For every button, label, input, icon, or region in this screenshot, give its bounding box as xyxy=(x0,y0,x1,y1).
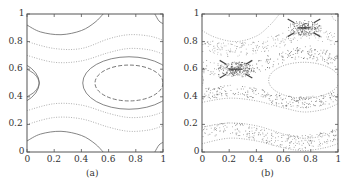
y-tick-label: 0.8 xyxy=(183,37,197,46)
y-tick-label: 1 xyxy=(194,9,200,18)
series-cluster-hyperbolic-2 xyxy=(288,19,322,37)
x-tick-label: 0.2 xyxy=(222,155,236,164)
series-island-orbit xyxy=(269,62,340,98)
y-tick-label: 0.2 xyxy=(183,119,197,128)
series-lower-regular-2 xyxy=(202,138,338,150)
series-top-right-regular xyxy=(331,14,338,21)
series-cluster-hyperbolic-1 xyxy=(219,60,252,78)
series-chaos-band-upper xyxy=(203,46,339,77)
series-chaos-band-lower xyxy=(202,122,338,149)
x-tick-label: 1 xyxy=(336,155,342,164)
y-tick-label: 0.6 xyxy=(183,64,197,73)
series-group xyxy=(133,14,340,151)
x-tick-label: 0.4 xyxy=(249,155,263,164)
series-chaos-band-mid xyxy=(202,85,338,108)
x-tick-label: 0.6 xyxy=(276,155,290,164)
series-chaos-band-mid-upper xyxy=(202,25,339,57)
x-tick-label: 0.8 xyxy=(303,155,317,164)
series-lower-regular-1 xyxy=(202,123,338,138)
x-tick-label: 0 xyxy=(200,155,206,164)
y-tick-label: 0 xyxy=(194,147,200,156)
chart-plot-b xyxy=(0,0,351,187)
caption-b: (b) xyxy=(261,168,274,178)
y-tick-label: 0.4 xyxy=(183,92,197,101)
